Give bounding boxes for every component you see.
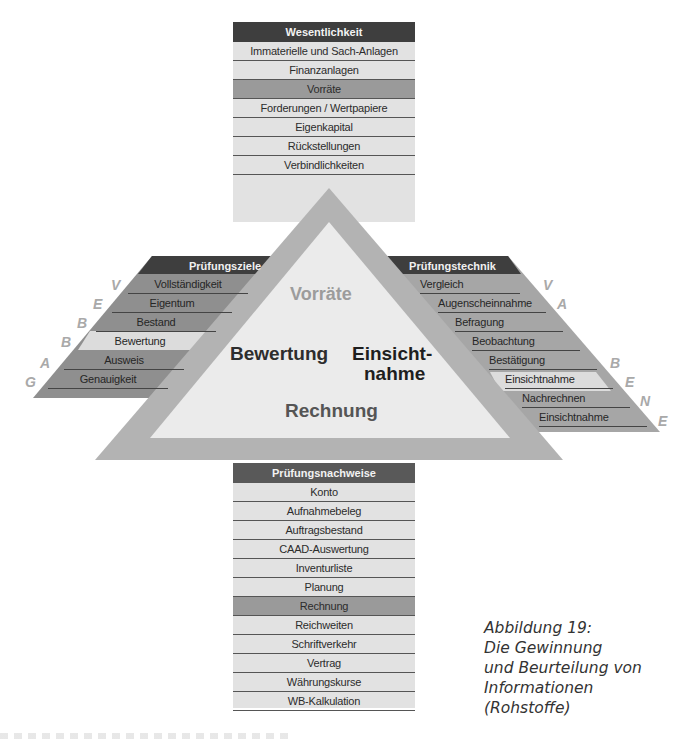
cut-off-footer-text <box>0 733 290 739</box>
caption-line: Abbildung 19: <box>484 618 642 638</box>
caption-line: (Rohstoffe) <box>484 698 642 718</box>
triangle-right-label-2: nahme <box>364 363 425 385</box>
list-item: CAAD-Auswertung <box>233 540 415 559</box>
left-letter-v: V <box>111 277 120 293</box>
triangle-top-label: Vorräte <box>290 284 352 305</box>
list-item: Beobachtung <box>472 332 580 351</box>
bottom-column-header: Prüfungsnachweise <box>233 463 415 483</box>
list-item: Planung <box>233 578 415 597</box>
right-letter-e: E <box>625 374 634 390</box>
list-item: Eigentum <box>112 294 232 313</box>
triangle-bottom-label: Rechnung <box>285 400 378 422</box>
list-item: Inventurliste <box>233 559 415 578</box>
right-letter-b: B <box>610 355 620 371</box>
right-letter-e: E <box>658 413 667 429</box>
left-letter-e: E <box>93 296 102 312</box>
list-item: Ausweis <box>64 351 184 370</box>
left-letter-g: G <box>25 374 36 390</box>
list-item: Einsichtnahme <box>539 408 647 427</box>
right-letter-v: V <box>543 277 552 293</box>
triangle-right-label-1: Einsicht- <box>352 343 432 365</box>
caption-line: Informationen <box>484 678 642 698</box>
left-letter-a: A <box>40 355 50 371</box>
list-item: Genauigkeit <box>48 370 168 389</box>
list-item: Nachrechnen <box>522 389 630 408</box>
list-item: WB-Kalkulation <box>233 692 415 711</box>
caption-line: Die Gewinnung <box>484 638 642 658</box>
list-item: Konto <box>233 483 415 502</box>
list-item: Vollständigkeit <box>128 275 248 294</box>
list-item-highlighted: Rechnung <box>233 597 415 616</box>
list-item: Augenscheinnahme <box>438 294 546 313</box>
right-letter-n: N <box>640 393 650 409</box>
list-item: Schriftverkehr <box>233 635 415 654</box>
left-letter-b: B <box>61 334 71 350</box>
list-item: Bestätigung <box>489 351 597 370</box>
right-panel-header: Prüfungstechnik <box>395 257 510 275</box>
figure-caption: Abbildung 19: Die Gewinnung und Beurteil… <box>484 618 642 718</box>
list-item: Befragung <box>455 313 563 332</box>
list-item: Auftragsbestand <box>233 521 415 540</box>
list-item: Währungskurse <box>233 673 415 692</box>
list-item-highlighted: Bewertung <box>80 332 200 351</box>
list-item: Vertrag <box>233 654 415 673</box>
triangle-left-label: Bewertung <box>230 343 328 365</box>
caption-line: und Beurteilung von <box>484 658 642 678</box>
list-item: Reichweiten <box>233 616 415 635</box>
list-item: Vergleich <box>420 275 520 294</box>
left-panel-header: Prüfungsziele <box>170 257 280 275</box>
list-item: Bestand <box>96 313 216 332</box>
list-item-highlighted: Einsichtnahme <box>505 370 613 389</box>
left-letter-b: B <box>77 315 87 331</box>
right-letter-a: A <box>557 296 567 312</box>
list-item: Aufnahmebeleg <box>233 502 415 521</box>
bottom-column-pruefungsnachweise: Prüfungsnachweise Konto Aufnahmebeleg Au… <box>233 463 415 708</box>
